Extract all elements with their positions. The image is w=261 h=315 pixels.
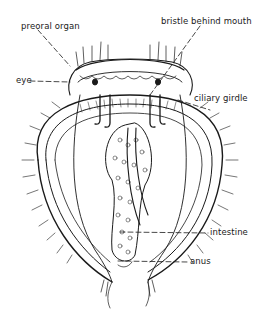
intestine-shape bbox=[106, 123, 152, 261]
head-region bbox=[69, 42, 192, 95]
leader-lines bbox=[30, 26, 210, 262]
label-ciliary-girdle: ciliary girdle bbox=[194, 93, 248, 103]
label-intestine: intestine bbox=[210, 227, 248, 237]
label-preoral-organ: preoral organ bbox=[21, 21, 80, 31]
eye-left bbox=[93, 79, 98, 85]
anal-tufts bbox=[101, 262, 155, 308]
label-bristle-behind-mouth: bristle behind mouth bbox=[161, 16, 252, 26]
girdle-hatching bbox=[80, 99, 176, 112]
larva-diagram bbox=[0, 0, 261, 315]
ciliary-girdle-shape bbox=[37, 95, 222, 282]
label-eye: eye bbox=[16, 75, 32, 85]
label-anus: anus bbox=[190, 256, 211, 266]
